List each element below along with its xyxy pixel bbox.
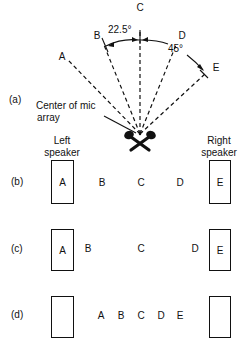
left-speaker-caption-line2: speaker xyxy=(44,148,80,158)
right-speaker-caption-line2: speaker xyxy=(201,148,237,158)
direction-label-d: D xyxy=(178,31,185,41)
direction-label-e: E xyxy=(213,63,220,73)
image-label-c: C xyxy=(137,244,144,254)
image-label-a: A xyxy=(98,311,105,321)
image-label-c: C xyxy=(137,178,144,188)
panel-label-a: (a) xyxy=(9,95,21,105)
right-speaker-b: E xyxy=(209,160,231,204)
direction-line-b xyxy=(104,45,140,134)
left-speaker-d xyxy=(51,296,74,338)
speaker-image-label: A xyxy=(52,177,73,188)
center-caption-line2: array xyxy=(37,113,60,123)
speaker-image-label: A xyxy=(52,245,73,256)
speaker-image-label: E xyxy=(210,245,230,256)
direction-label-a: A xyxy=(59,52,66,62)
image-label-b: B xyxy=(118,311,125,321)
image-label-d: D xyxy=(191,244,198,254)
panel-label-d: (d) xyxy=(11,310,23,320)
direction-line-a xyxy=(68,60,140,134)
angle-label-45: 45° xyxy=(168,44,183,54)
left-speaker-b: A xyxy=(51,160,74,204)
image-label-d: D xyxy=(176,178,183,188)
right-speaker-c: E xyxy=(209,229,231,271)
panel-label-b: (b) xyxy=(11,177,23,187)
direction-line-e xyxy=(140,74,205,134)
image-label-c: C xyxy=(137,311,144,321)
center-caption-line1: Center of mic xyxy=(36,101,95,111)
panel-label-c: (c) xyxy=(11,244,23,254)
right-speaker-caption-line1: Right xyxy=(207,136,230,146)
center-pointer-line xyxy=(104,116,136,133)
right-speaker-d xyxy=(209,296,231,338)
direction-label-c: C xyxy=(136,3,143,13)
left-speaker-c: A xyxy=(51,229,74,271)
image-label-b: B xyxy=(85,244,92,254)
image-label-e: E xyxy=(177,311,184,321)
angle-diagram xyxy=(0,0,242,345)
speaker-image-label: E xyxy=(210,177,230,188)
image-label-b: B xyxy=(99,178,106,188)
image-label-d: D xyxy=(157,311,164,321)
direction-label-b: B xyxy=(94,31,101,41)
left-speaker-caption-line1: Left xyxy=(54,136,71,146)
direction-line-d xyxy=(140,45,176,134)
angle-label-22-5: 22.5° xyxy=(108,25,131,35)
